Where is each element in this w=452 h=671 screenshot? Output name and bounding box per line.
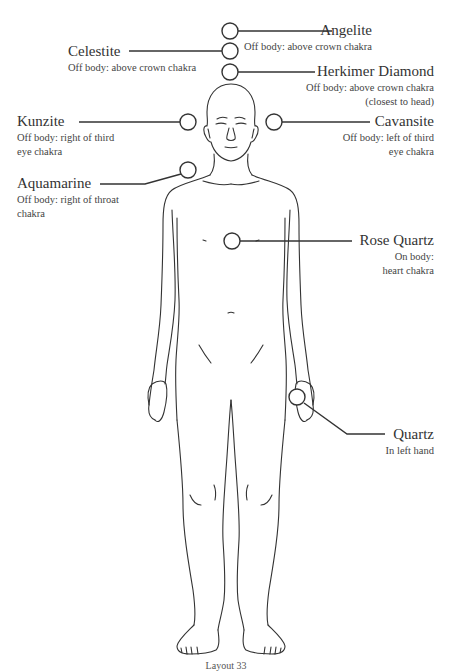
stone-description: heart chakra <box>359 264 434 278</box>
label-cavansite: Cavansite Off body: left of third eye ch… <box>343 112 434 159</box>
stone-description: Off body: above crown chakra <box>244 40 372 54</box>
stone-name: Celestite <box>68 42 196 61</box>
marker-aquamarine[interactable] <box>180 162 196 178</box>
label-aquamarine: Aquamarine Off body: right of throat cha… <box>17 174 119 221</box>
stone-name: Quartz <box>386 425 434 444</box>
stone-description: In left hand <box>386 444 434 458</box>
stone-name: Kunzite <box>17 112 114 131</box>
stone-description: Off body: above crown chakra <box>306 81 434 95</box>
figure-caption: Layout 33 <box>0 660 452 671</box>
stone-description: chakra <box>17 207 119 221</box>
body-outline <box>148 84 314 654</box>
marker-rose-quartz[interactable] <box>224 233 240 249</box>
label-angelite: Angelite Off body: above crown chakra <box>244 21 372 54</box>
marker-cavansite[interactable] <box>266 114 282 130</box>
stone-description: Off body: left of third <box>343 131 434 145</box>
leader-line-quartz <box>304 403 385 434</box>
stone-description: On body: <box>359 250 434 264</box>
stone-description: Off body: above crown chakra <box>68 61 196 75</box>
label-rose-quartz: Rose Quartz On body: heart chakra <box>359 231 434 278</box>
label-kunzite: Kunzite Off body: right of third eye cha… <box>17 112 114 159</box>
stone-description: Off body: right of throat <box>17 193 119 207</box>
stone-description: eye chakra <box>17 145 114 159</box>
label-celestite: Celestite Off body: above crown chakra <box>68 42 196 75</box>
label-herkimer-diamond: Herkimer Diamond Off body: above crown c… <box>306 62 434 109</box>
marker-herkimer-diamond[interactable] <box>222 64 238 80</box>
stone-name: Cavansite <box>343 112 434 131</box>
stone-name: Aquamarine <box>17 174 119 193</box>
stone-name: Rose Quartz <box>359 231 434 250</box>
stone-description: (closest to head) <box>306 95 434 109</box>
marker-quartz[interactable] <box>289 389 305 405</box>
label-quartz: Quartz In left hand <box>386 425 434 458</box>
marker-kunzite[interactable] <box>180 114 196 130</box>
stone-name: Angelite <box>244 21 372 40</box>
stone-name: Herkimer Diamond <box>306 62 434 81</box>
marker-celestite[interactable] <box>222 43 238 59</box>
stone-description: eye chakra <box>343 145 434 159</box>
marker-angelite[interactable] <box>222 23 238 39</box>
stone-description: Off body: right of third <box>17 131 114 145</box>
